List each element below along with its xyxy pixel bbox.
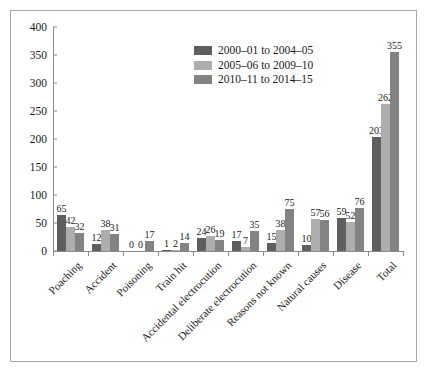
bar-group-bars: 654232: [53, 27, 88, 251]
x-axis-category-label: Poaching: [46, 259, 83, 296]
bar-value-label: 15: [267, 232, 277, 242]
bar-rect: [346, 222, 355, 251]
x-axis-tick-mark: [263, 252, 264, 256]
legend-label: 2005–06 to 2009–10: [218, 59, 313, 73]
legend-item[interactable]: 2010–11 to 2014–15: [194, 73, 313, 87]
bar[interactable]: 31: [110, 27, 119, 251]
bar-group: 123831: [88, 27, 123, 251]
bar-value-label: 1: [164, 239, 169, 249]
bar-value-label: 65: [57, 204, 67, 214]
legend-label: 2010–11 to 2014–15: [218, 73, 313, 87]
bar[interactable]: 0: [127, 27, 136, 251]
bar[interactable]: 42: [66, 27, 75, 251]
bar-rect: [110, 234, 119, 251]
y-axis-tick-label: 350: [30, 49, 53, 61]
legend-label: 2000–01 to 2004–05: [218, 44, 313, 58]
x-axis-tick-mark: [403, 252, 404, 256]
bar-value-label: 19: [215, 229, 225, 239]
x-axis-tick-mark: [158, 252, 159, 256]
bar-rect: [267, 243, 276, 251]
bar[interactable]: 14: [180, 27, 189, 251]
bar-rect: [320, 220, 329, 251]
bar-rect: [241, 247, 250, 251]
bar-group: 1214: [158, 27, 193, 251]
bar-value-label: 17: [232, 230, 242, 240]
bar-value-label: 2: [173, 239, 178, 249]
y-axis-tick-label: 300: [30, 77, 53, 89]
legend-color-swatch: [194, 75, 212, 84]
bar-value-label: 35: [250, 220, 260, 230]
bar[interactable]: 38: [101, 27, 110, 251]
legend-color-swatch: [194, 61, 212, 70]
bar[interactable]: 203: [372, 27, 381, 251]
bar[interactable]: 52: [346, 27, 355, 251]
y-axis-tick-label: 400: [30, 21, 53, 33]
x-axis-category-label: Train hit: [153, 259, 188, 294]
bar-rect: [215, 240, 224, 251]
bar-group-bars: 203262355: [368, 27, 403, 251]
bar-rect: [302, 245, 311, 251]
x-axis-category-label: Disease: [330, 259, 363, 292]
bar[interactable]: 2: [171, 27, 180, 251]
bar-value-label: 10: [302, 234, 312, 244]
bar-value-label: 52: [346, 211, 356, 221]
bar[interactable]: 56: [320, 27, 329, 251]
bar[interactable]: 262: [381, 27, 390, 251]
x-axis-tick-mark: [333, 252, 334, 256]
bar-group: 654232: [53, 27, 88, 251]
x-axis-category-label: Accident: [82, 259, 119, 296]
bar-value-label: 7: [243, 236, 248, 246]
bar-rect: [75, 233, 84, 251]
bar-value-label: 32: [75, 222, 85, 232]
bar-group: 203262355: [368, 27, 403, 251]
bar-rect: [197, 238, 206, 251]
bar-value-label: 14: [180, 232, 190, 242]
bar[interactable]: 355: [390, 27, 399, 251]
bar-rect: [381, 104, 390, 251]
bar-rect: [390, 52, 399, 251]
bar-group: 0017: [123, 27, 158, 251]
bar[interactable]: 17: [145, 27, 154, 251]
bar-value-label: 56: [320, 209, 330, 219]
y-axis-tick-label: 50: [36, 217, 54, 229]
bar[interactable]: 0: [136, 27, 145, 251]
bar-value-label: 0: [129, 240, 134, 250]
bar-group-bars: 595276: [333, 27, 368, 251]
bar-rect: [145, 241, 154, 251]
bar-group-bars: 123831: [88, 27, 123, 251]
bar-rect: [92, 244, 101, 251]
bar-value-label: 17: [145, 230, 155, 240]
y-axis-tick-label: 250: [30, 105, 53, 117]
bar-rect: [171, 250, 180, 251]
y-axis-tick-label: 150: [30, 161, 53, 173]
bar-group: 595276: [333, 27, 368, 251]
bar-value-label: 355: [387, 41, 402, 51]
x-axis-category-label: Total: [374, 259, 398, 283]
bar[interactable]: 76: [355, 27, 364, 251]
bar-value-label: 31: [110, 223, 120, 233]
y-axis-tick-label: 200: [30, 133, 53, 145]
x-axis-tick-mark: [368, 252, 369, 256]
y-axis-tick-label: 0: [41, 245, 53, 257]
bar-group-bars: 0017: [123, 27, 158, 251]
bar-rect: [180, 243, 189, 251]
x-axis-category-label: Poisoning: [114, 259, 154, 299]
bar-rect: [232, 241, 241, 251]
y-axis-tick-label: 100: [30, 189, 53, 201]
bar-rect: [162, 250, 171, 251]
x-axis-tick-mark: [88, 252, 89, 256]
x-axis-tick-mark: [298, 252, 299, 256]
bar-rect: [101, 230, 110, 251]
bar-rect: [355, 208, 364, 251]
bar-rect: [372, 137, 381, 251]
x-axis-tick-mark: [193, 252, 194, 256]
bar-rect: [311, 219, 320, 251]
bar[interactable]: 32: [75, 27, 84, 251]
legend-item[interactable]: 2005–06 to 2009–10: [194, 59, 313, 73]
bar-group-bars: 1214: [158, 27, 193, 251]
bar[interactable]: 1: [162, 27, 171, 251]
bar-value-label: 0: [138, 240, 143, 250]
x-axis-category-label: Reasons not known: [224, 259, 293, 328]
legend-item[interactable]: 2000–01 to 2004–05: [194, 44, 313, 58]
legend-color-swatch: [194, 46, 212, 55]
